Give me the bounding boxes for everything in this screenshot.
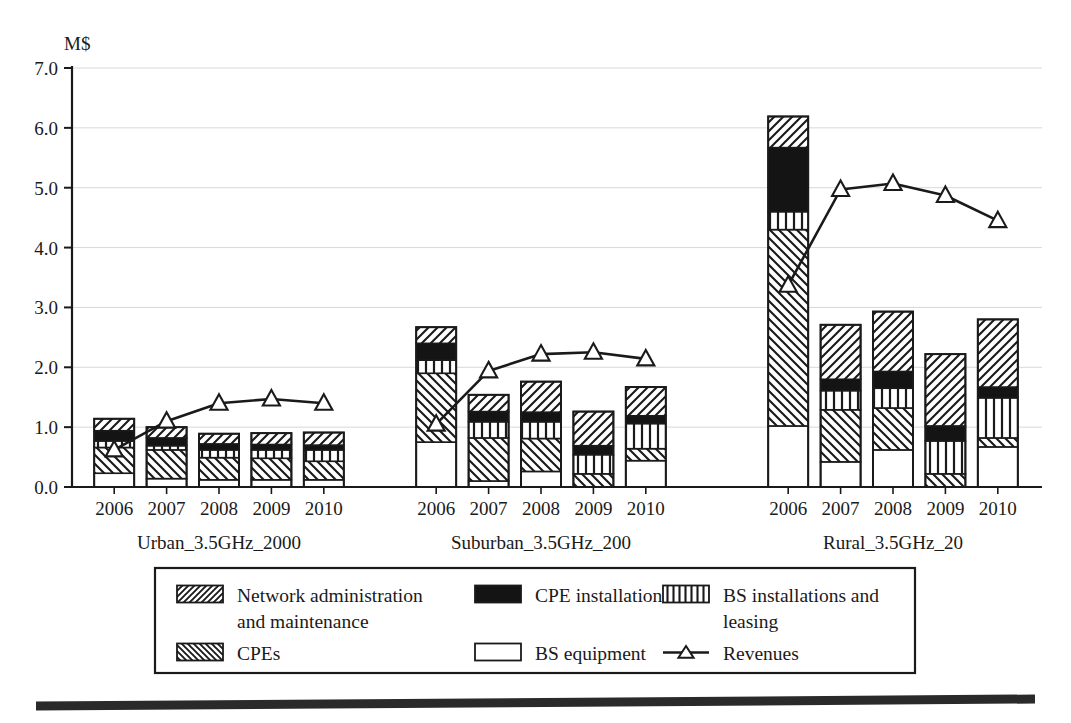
bar-segment <box>199 458 239 480</box>
svg-text:2010: 2010 <box>979 498 1017 519</box>
svg-text:Suburban_3.5GHz_200: Suburban_3.5GHz_200 <box>451 532 631 553</box>
bar-stack <box>147 427 187 487</box>
svg-text:7.0: 7.0 <box>34 58 58 79</box>
bar-segment <box>469 412 509 422</box>
bar-segment <box>416 360 456 373</box>
bar-segment <box>94 473 134 487</box>
bar-segment <box>573 455 613 474</box>
svg-text:2006: 2006 <box>769 498 807 519</box>
bar-segment <box>416 343 456 360</box>
legend-swatch <box>475 586 521 603</box>
bar-segment <box>978 438 1018 447</box>
bar-segment <box>978 319 1018 387</box>
bar-segment <box>626 416 666 424</box>
bar-stack <box>978 319 1018 487</box>
svg-text:Urban_3.5GHz_2000: Urban_3.5GHz_2000 <box>137 532 301 553</box>
legend-swatch <box>475 644 521 661</box>
bottom-rule <box>36 699 1035 706</box>
revenue-marker <box>884 175 901 190</box>
legend-swatch <box>663 586 709 603</box>
bar-segment <box>925 474 965 487</box>
page-rule <box>36 699 1035 706</box>
svg-text:2008: 2008 <box>200 498 238 519</box>
bar-segment <box>251 433 291 444</box>
bar-segment <box>521 471 561 487</box>
bar-segment <box>978 398 1018 438</box>
svg-text:0.0: 0.0 <box>34 477 58 498</box>
bar-segment <box>416 327 456 343</box>
svg-text:2010: 2010 <box>627 498 665 519</box>
svg-text:2007: 2007 <box>822 498 860 519</box>
bar-segment <box>251 445 291 450</box>
bar-segment <box>521 412 561 422</box>
bar-segment <box>873 450 913 487</box>
revenue-marker <box>263 390 280 405</box>
legend-item-label: BS installations and <box>723 585 879 606</box>
bar-segment <box>821 391 861 410</box>
bar-segment <box>521 439 561 472</box>
bar-segment <box>147 438 187 446</box>
svg-text:2006: 2006 <box>417 498 455 519</box>
bar-stack <box>873 312 913 487</box>
bar-segment <box>573 446 613 455</box>
svg-text:3.0: 3.0 <box>34 297 58 318</box>
svg-text:2008: 2008 <box>522 498 560 519</box>
svg-text:2007: 2007 <box>148 498 186 519</box>
bar-segment <box>768 212 808 230</box>
bar-segment <box>521 382 561 413</box>
revenue-marker <box>989 212 1006 227</box>
bar-segment <box>304 461 344 480</box>
legend-item-label: BS equipment <box>535 643 647 664</box>
bar-segment <box>768 426 808 487</box>
legend-swatch <box>177 644 223 661</box>
bar-segment <box>873 312 913 372</box>
revenue-marker <box>585 343 602 358</box>
legend-item[interactable]: CPE installations <box>475 585 670 606</box>
bar-segment <box>978 387 1018 398</box>
bar-stack <box>304 433 344 487</box>
svg-text:Rural_3.5GHz_20: Rural_3.5GHz_20 <box>823 532 963 553</box>
svg-text:2.0: 2.0 <box>34 357 58 378</box>
bar-stack <box>821 325 861 487</box>
bar-segment <box>925 354 965 426</box>
chart-page: 20062007200820092010Urban_3.5GHz_2000200… <box>0 0 1071 723</box>
bar-segment <box>821 462 861 487</box>
svg-text:1.0: 1.0 <box>34 417 58 438</box>
legend-item-label: Revenues <box>723 643 799 664</box>
bar-stack <box>521 382 561 487</box>
legend-item-label: CPE installations <box>535 585 670 606</box>
legend-item-label: leasing <box>723 611 778 632</box>
legend-item-label: Network administration <box>237 585 423 606</box>
bar-segment <box>768 148 808 212</box>
bar-segment <box>251 450 291 458</box>
stacked-bar-chart: 20062007200820092010Urban_3.5GHz_2000200… <box>0 0 1071 723</box>
bar-segment <box>873 408 913 450</box>
bar-segment <box>873 388 913 408</box>
bar-stack <box>251 433 291 487</box>
svg-text:M$: M$ <box>64 33 90 54</box>
svg-text:4.0: 4.0 <box>34 238 58 259</box>
bar-segment <box>573 412 613 446</box>
bar-segment <box>251 458 291 480</box>
bar-segment <box>304 433 344 446</box>
bar-segment <box>199 444 239 450</box>
bar-segment <box>821 410 861 462</box>
svg-text:2007: 2007 <box>470 498 508 519</box>
svg-text:6.0: 6.0 <box>34 118 58 139</box>
bar-segment <box>199 450 239 458</box>
legend-item[interactable]: BS equipment <box>475 643 647 664</box>
bar-segment <box>821 325 861 379</box>
bar-segment <box>626 461 666 487</box>
bars-layer <box>94 116 1018 487</box>
svg-text:2008: 2008 <box>874 498 912 519</box>
legend-item-label: CPEs <box>237 643 280 664</box>
bar-segment <box>978 447 1018 487</box>
bar-segment <box>626 387 666 416</box>
bar-segment <box>873 371 913 388</box>
bar-stack <box>469 395 509 487</box>
bar-segment <box>626 424 666 449</box>
legend-item-label: and maintenance <box>237 611 369 632</box>
bar-stack <box>416 327 456 487</box>
svg-text:2009: 2009 <box>574 498 612 519</box>
bar-segment <box>626 449 666 461</box>
